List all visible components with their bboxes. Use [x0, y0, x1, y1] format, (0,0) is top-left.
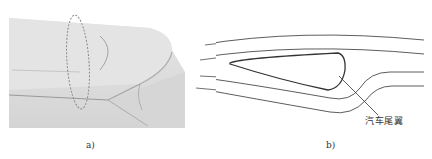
streamline-diagram [216, 0, 432, 159]
spoiler-callout-label: 汽车尾翼 [365, 114, 403, 127]
spoiler-render-graphic [0, 0, 216, 159]
panel-a-spoiler-render: a) [0, 0, 216, 159]
caption-a: a) [86, 140, 95, 150]
caption-b: b) [326, 140, 335, 150]
panel-b-streamlines: 汽车尾翼 b) [216, 0, 432, 159]
